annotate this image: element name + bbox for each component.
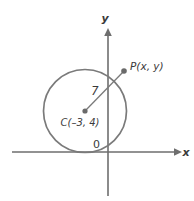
y-axis-arrow-icon bbox=[104, 28, 112, 36]
point-p-label: P(x, y) bbox=[130, 60, 164, 72]
radius-length-label: 7 bbox=[91, 84, 99, 98]
y-axis-label: y bbox=[101, 12, 109, 25]
geometry-figure: y x 0 7 P(x, y) C(–3, 4) bbox=[0, 0, 194, 201]
x-axis-label: x bbox=[181, 146, 190, 159]
center-point-marker bbox=[82, 108, 87, 113]
x-axis-arrow-icon bbox=[174, 148, 182, 156]
center-c-label: C(–3, 4) bbox=[61, 117, 100, 128]
origin-label: 0 bbox=[93, 138, 100, 151]
circle-diagram-canvas: y x 0 7 P(x, y) C(–3, 4) bbox=[0, 0, 194, 201]
point-p-marker bbox=[121, 68, 127, 74]
